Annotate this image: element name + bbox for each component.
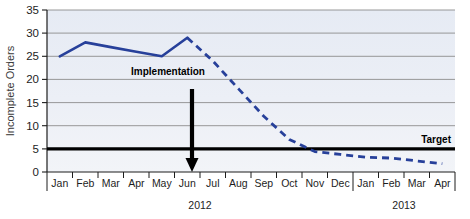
y-tick-label: 25 bbox=[26, 50, 39, 62]
year-label-2012: 2012 bbox=[188, 199, 212, 211]
x-tick-label: Mar bbox=[408, 177, 427, 189]
y-tick-label: 5 bbox=[33, 143, 39, 155]
year-group-labels: 2012 2013 bbox=[188, 199, 416, 211]
x-tick-label: Dec bbox=[331, 177, 350, 189]
x-tick-label: Jun bbox=[179, 177, 196, 189]
x-tick-label: Nov bbox=[305, 177, 324, 189]
x-tick-labels: Jan Feb Mar Apr May Jun Jul Aug Sep Oct … bbox=[51, 177, 451, 189]
y-tick-label: 15 bbox=[26, 97, 39, 109]
target-label: Target bbox=[421, 134, 451, 145]
x-tick-marks bbox=[73, 172, 430, 178]
x-tick-label: Sep bbox=[254, 177, 273, 189]
x-tick-label: Feb bbox=[76, 177, 94, 189]
x-tick-label: Oct bbox=[281, 177, 297, 189]
x-tick-label: Feb bbox=[382, 177, 400, 189]
x-tick-label: Jan bbox=[357, 177, 374, 189]
y-tick-label: 0 bbox=[33, 166, 39, 178]
y-tick-labels: 35 30 25 20 15 10 5 0 bbox=[26, 4, 39, 178]
y-tick-label: 35 bbox=[26, 4, 39, 16]
x-tick-label: Mar bbox=[102, 177, 121, 189]
y-tick-label: 10 bbox=[26, 120, 39, 132]
x-tick-label: Jan bbox=[51, 177, 68, 189]
x-tick-label: Jul bbox=[206, 177, 219, 189]
chart-svg: 35 30 25 20 15 10 5 0 Incomplete Orders bbox=[0, 0, 470, 219]
y-axis-title: Incomplete Orders bbox=[4, 45, 16, 136]
x-tick-label: Apr bbox=[434, 177, 451, 189]
x-tick-label: Aug bbox=[229, 177, 248, 189]
implementation-label: Implementation bbox=[131, 66, 205, 77]
y-tick-marks bbox=[42, 10, 47, 172]
y-tick-label: 20 bbox=[26, 73, 39, 85]
year-label-2013: 2013 bbox=[392, 199, 416, 211]
x-tick-label: Apr bbox=[128, 177, 145, 189]
y-tick-label: 30 bbox=[26, 27, 39, 39]
x-tick-label: May bbox=[152, 177, 173, 189]
incomplete-orders-chart: 35 30 25 20 15 10 5 0 Incomplete Orders bbox=[0, 0, 470, 219]
